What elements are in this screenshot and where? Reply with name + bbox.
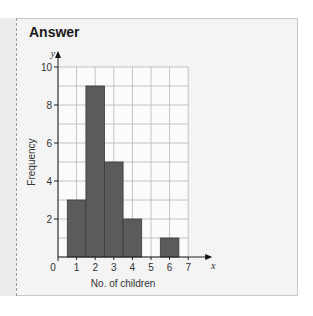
y-tick-label: 2	[46, 214, 52, 225]
y-axis-letter: y	[50, 48, 56, 59]
x-tick-label: 7	[185, 262, 191, 273]
histogram-bar	[160, 238, 179, 257]
histogram-bar	[105, 162, 124, 257]
histogram-bar	[123, 219, 142, 257]
x-tick-label: 1	[74, 262, 80, 273]
x-tick-label: 5	[148, 262, 154, 273]
histogram-bar	[67, 200, 86, 257]
x-tick-label: 2	[92, 262, 98, 273]
x-axis-letter: x	[210, 260, 216, 271]
histogram-chart: 01234567246810xyNo. of childrenFrequency	[0, 0, 313, 316]
x-axis-title: No. of children	[91, 278, 155, 289]
histogram-bar	[86, 86, 105, 257]
y-tick-label: 4	[46, 176, 52, 187]
y-tick-label: 6	[46, 138, 52, 149]
y-axis-title: Frequency	[26, 138, 37, 185]
x-tick-label: 6	[167, 262, 173, 273]
y-axis-arrow-icon	[55, 51, 61, 58]
y-tick-label: 10	[41, 62, 53, 73]
y-tick-label: 8	[46, 100, 52, 111]
x-tick-label: 4	[130, 262, 136, 273]
x-tick-label: 3	[111, 262, 117, 273]
x-tick-label: 0	[50, 262, 56, 273]
